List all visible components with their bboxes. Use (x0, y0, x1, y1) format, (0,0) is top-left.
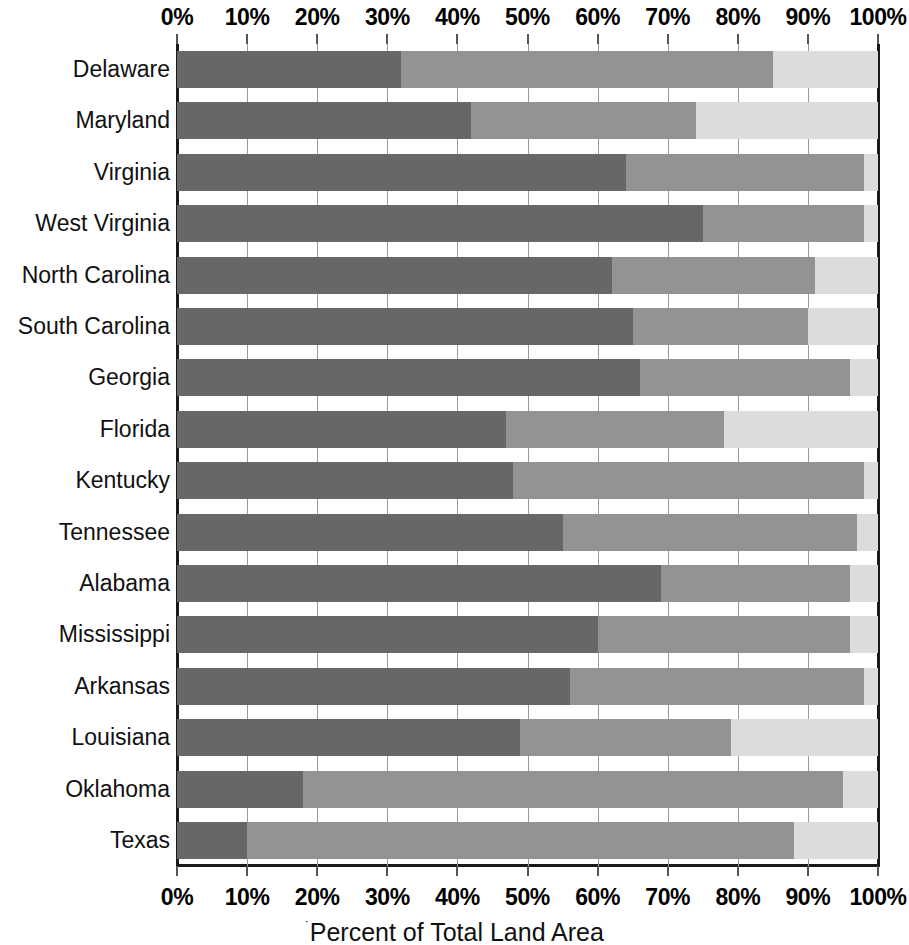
axis-tick-label: 80% (715, 4, 760, 30)
bar-segment[interactable] (177, 719, 520, 756)
axis-tickmark (597, 866, 599, 876)
bar-segment[interactable] (177, 359, 640, 396)
axis-tickmark (176, 866, 178, 876)
bar-row[interactable] (177, 462, 878, 499)
axis-tick-label: 90% (785, 4, 830, 30)
bar-segment[interactable] (177, 257, 612, 294)
bar-segment[interactable] (850, 359, 878, 396)
axis-tickmark (597, 34, 599, 44)
bar-row[interactable] (177, 719, 878, 756)
bar-row[interactable] (177, 257, 878, 294)
bar-row[interactable] (177, 565, 878, 602)
bar-segment[interactable] (401, 51, 773, 88)
category-label: Alabama (2, 568, 170, 598)
bottom-axis-tickmarks (0, 866, 909, 876)
bar-segment[interactable] (177, 668, 570, 705)
bar-segment[interactable] (640, 359, 850, 396)
bar-segment[interactable] (247, 822, 794, 859)
axis-tickmark (527, 866, 529, 876)
axis-tick-label: 20% (295, 4, 340, 30)
category-label: Arkansas (2, 671, 170, 701)
axis-tick-label: 60% (575, 884, 620, 910)
bar-segment[interactable] (177, 205, 703, 242)
bar-segment[interactable] (731, 719, 878, 756)
axis-tick-label: 50% (505, 884, 550, 910)
stacked-bar-chart: 0%10%20%30%40%50%60%70%80%90%100% Delawa… (0, 0, 909, 945)
axis-tick-label: 40% (435, 4, 480, 30)
axis-tickmark (176, 34, 178, 44)
bar-segment[interactable] (177, 771, 303, 808)
bar-segment[interactable] (857, 514, 878, 551)
bar-row[interactable] (177, 668, 878, 705)
bar-segment[interactable] (612, 257, 815, 294)
axis-tickmark (316, 866, 318, 876)
category-label: Georgia (2, 362, 170, 392)
axis-tick-label: 0% (161, 4, 193, 30)
bar-segment[interactable] (506, 411, 723, 448)
bar-row[interactable] (177, 154, 878, 191)
caption-text: Percent of Total Land Area (310, 918, 604, 945)
bar-segment[interactable] (864, 462, 878, 499)
bar-segment[interactable] (177, 565, 661, 602)
axis-tickmark (737, 34, 739, 44)
plot-area (177, 44, 878, 866)
bar-segment[interactable] (570, 668, 864, 705)
bar-segment[interactable] (177, 308, 633, 345)
bar-segment[interactable] (724, 411, 878, 448)
bar-segment[interactable] (864, 668, 878, 705)
bar-segment[interactable] (520, 719, 730, 756)
bar-segment[interactable] (177, 154, 626, 191)
category-label: South Carolina (2, 311, 170, 341)
bar-row[interactable] (177, 616, 878, 653)
bar-row[interactable] (177, 51, 878, 88)
bar-segment[interactable] (177, 514, 563, 551)
bar-segment[interactable] (626, 154, 864, 191)
bar-segment[interactable] (177, 462, 513, 499)
bar-segment[interactable] (808, 308, 878, 345)
axis-tickmark (246, 34, 248, 44)
axis-tick-label: 70% (645, 4, 690, 30)
top-axis-tick-labels: 0%10%20%30%40%50%60%70%80%90%100% (0, 4, 909, 30)
category-label: Delaware (2, 54, 170, 84)
axis-tick-label: 40% (435, 884, 480, 910)
category-label: Virginia (2, 157, 170, 187)
bar-segment[interactable] (471, 102, 695, 139)
bar-segment[interactable] (303, 771, 843, 808)
category-axis-labels: DelawareMarylandVirginiaWest VirginiaNor… (0, 44, 170, 866)
bar-segment[interactable] (661, 565, 850, 602)
bar-segment[interactable] (177, 102, 471, 139)
axis-tickmark (527, 34, 529, 44)
category-label: Mississippi (2, 619, 170, 649)
bar-segment[interactable] (177, 411, 506, 448)
bar-row[interactable] (177, 771, 878, 808)
bar-segment[interactable] (177, 51, 401, 88)
bar-row[interactable] (177, 822, 878, 859)
bar-segment[interactable] (843, 771, 878, 808)
bar-segment[interactable] (563, 514, 857, 551)
bar-segment[interactable] (633, 308, 808, 345)
bar-row[interactable] (177, 411, 878, 448)
bar-row[interactable] (177, 359, 878, 396)
bar-segment[interactable] (864, 154, 878, 191)
bar-segment[interactable] (850, 565, 878, 602)
category-label: Louisiana (2, 722, 170, 752)
bar-segment[interactable] (177, 822, 247, 859)
bar-row[interactable] (177, 308, 878, 345)
bar-segment[interactable] (773, 51, 878, 88)
bar-row[interactable] (177, 514, 878, 551)
axis-tick-label: 100% (849, 4, 906, 30)
bar-segment[interactable] (177, 616, 598, 653)
bar-segment[interactable] (850, 616, 878, 653)
bar-segment[interactable] (794, 822, 878, 859)
bar-row[interactable] (177, 102, 878, 139)
bar-row[interactable] (177, 205, 878, 242)
bar-segment[interactable] (815, 257, 878, 294)
bar-segment[interactable] (696, 102, 878, 139)
bar-segment[interactable] (703, 205, 864, 242)
bar-segment[interactable] (864, 205, 878, 242)
axis-tick-label: 10% (225, 4, 270, 30)
axis-tick-label: 60% (575, 4, 620, 30)
bar-segment[interactable] (598, 616, 850, 653)
bar-segment[interactable] (513, 462, 864, 499)
axis-tickmark (807, 866, 809, 876)
